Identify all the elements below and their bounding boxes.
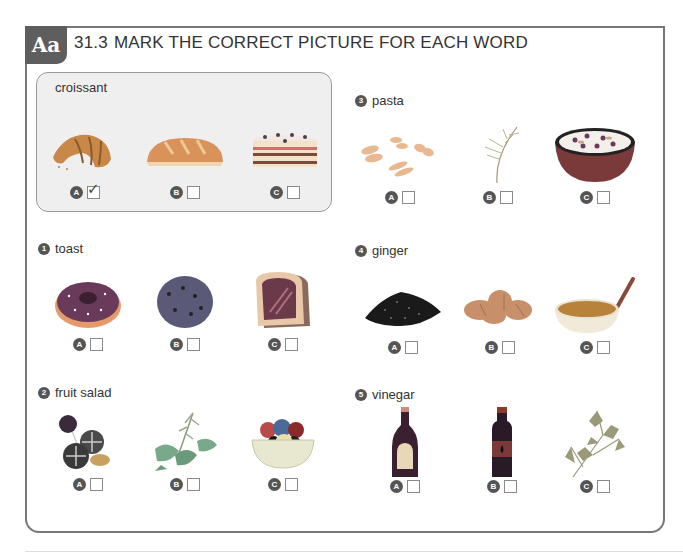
- option-letter: C: [580, 341, 593, 354]
- question-2-option-a[interactable]: A: [43, 412, 133, 491]
- question-1-option-a[interactable]: A: [43, 272, 133, 351]
- exercise-title: 31.3MARK THE CORRECT PICTURE FOR EACH WO…: [74, 33, 528, 53]
- option-letter: B: [483, 191, 496, 204]
- cereal-bowl-image: [550, 125, 640, 185]
- question-3-option-b[interactable]: B: [453, 125, 543, 204]
- answer-checkbox[interactable]: [407, 480, 420, 493]
- question-4-option-b[interactable]: B: [455, 275, 545, 354]
- candies-image: [43, 412, 133, 472]
- question-4-option-c[interactable]: C: [550, 275, 640, 354]
- question-number: 5: [355, 389, 367, 401]
- example-option-a[interactable]: A ✓: [40, 120, 130, 199]
- bread-loaf-image: [140, 120, 230, 180]
- soup-bowl-image: [550, 275, 640, 335]
- answer-checkbox[interactable]: [287, 186, 300, 199]
- option-letter: C: [580, 480, 593, 493]
- vocabulary-badge: Aa: [25, 26, 67, 64]
- question-3-word: 3 pasta: [355, 93, 404, 108]
- question-number: 2: [38, 387, 50, 399]
- answer-checkbox[interactable]: [504, 480, 517, 493]
- question-number: 4: [355, 245, 367, 257]
- answer-checkbox[interactable]: [597, 341, 610, 354]
- example-word: croissant: [55, 80, 107, 95]
- oil-bottle-image: [457, 408, 547, 478]
- example-option-c[interactable]: C: [240, 120, 330, 199]
- answer-checkbox[interactable]: [502, 341, 515, 354]
- question-4-option-a[interactable]: A: [358, 275, 448, 354]
- answer-checkbox[interactable]: [187, 478, 200, 491]
- herbs-image: [140, 412, 230, 472]
- option-letter: A: [390, 480, 403, 493]
- answer-checkbox[interactable]: [402, 191, 415, 204]
- layer-cake-image: [240, 120, 330, 180]
- option-letter: B: [487, 480, 500, 493]
- answer-checkbox[interactable]: [285, 338, 298, 351]
- answer-checkbox[interactable]: [597, 480, 610, 493]
- option-letter: C: [268, 478, 281, 491]
- exercise-number: 31.3: [74, 33, 108, 52]
- answer-checkbox[interactable]: [90, 478, 103, 491]
- option-letter: B: [170, 478, 183, 491]
- croissant-image: [40, 120, 130, 180]
- ground-pepper-image: [358, 275, 448, 335]
- question-5-option-c[interactable]: C: [550, 408, 640, 493]
- question-2-word: 2 fruit salad: [38, 385, 111, 400]
- sauce-bottle-image: [360, 408, 450, 478]
- option-letter: C: [270, 186, 283, 199]
- exercise-instruction: MARK THE CORRECT PICTURE FOR EACH WORD: [114, 33, 528, 52]
- answer-checkbox[interactable]: [285, 478, 298, 491]
- option-letter: C: [580, 191, 593, 204]
- question-1-option-c[interactable]: C: [238, 272, 328, 351]
- answer-checkbox[interactable]: ✓: [87, 186, 100, 199]
- option-letter: A: [70, 186, 83, 199]
- answer-checkbox[interactable]: [187, 338, 200, 351]
- cookie-image: [140, 272, 230, 332]
- toast-with-jam-image: [238, 272, 328, 332]
- answer-checkbox[interactable]: [405, 341, 418, 354]
- page: Aa 31.3MARK THE CORRECT PICTURE FOR EACH…: [0, 0, 683, 553]
- option-letter: C: [268, 338, 281, 351]
- option-letter: A: [385, 191, 398, 204]
- answer-checkbox[interactable]: [597, 191, 610, 204]
- question-5-option-a[interactable]: A: [360, 408, 450, 493]
- question-1-word: 1 toast: [38, 241, 83, 256]
- check-mark-icon: ✓: [87, 181, 100, 196]
- question-5-word: 5 vinegar: [355, 387, 415, 402]
- question-2-option-b[interactable]: B: [140, 412, 230, 491]
- option-letter: B: [170, 186, 183, 199]
- divider: [25, 551, 683, 552]
- dill-image: [453, 125, 543, 185]
- pasta-image: [355, 125, 445, 185]
- fruit-bowl-image: [238, 412, 328, 472]
- option-letter: A: [388, 341, 401, 354]
- option-letter: A: [73, 478, 86, 491]
- donut-image: [43, 272, 133, 332]
- answer-checkbox[interactable]: [90, 338, 103, 351]
- question-1-option-b[interactable]: B: [140, 272, 230, 351]
- question-3-option-c[interactable]: C: [550, 125, 640, 204]
- option-letter: B: [485, 341, 498, 354]
- question-5-option-b[interactable]: B: [457, 408, 547, 493]
- question-number: 3: [355, 95, 367, 107]
- example-option-b[interactable]: B: [140, 120, 230, 199]
- question-number: 1: [38, 243, 50, 255]
- answer-checkbox[interactable]: [500, 191, 513, 204]
- option-letter: B: [170, 338, 183, 351]
- question-4-word: 4 ginger: [355, 243, 408, 258]
- option-letter: A: [73, 338, 86, 351]
- parsley-image: [550, 408, 640, 478]
- answer-checkbox[interactable]: [187, 186, 200, 199]
- question-2-option-c[interactable]: C: [238, 412, 328, 491]
- question-3-option-a[interactable]: A: [355, 125, 445, 204]
- ginger-root-image: [455, 275, 545, 335]
